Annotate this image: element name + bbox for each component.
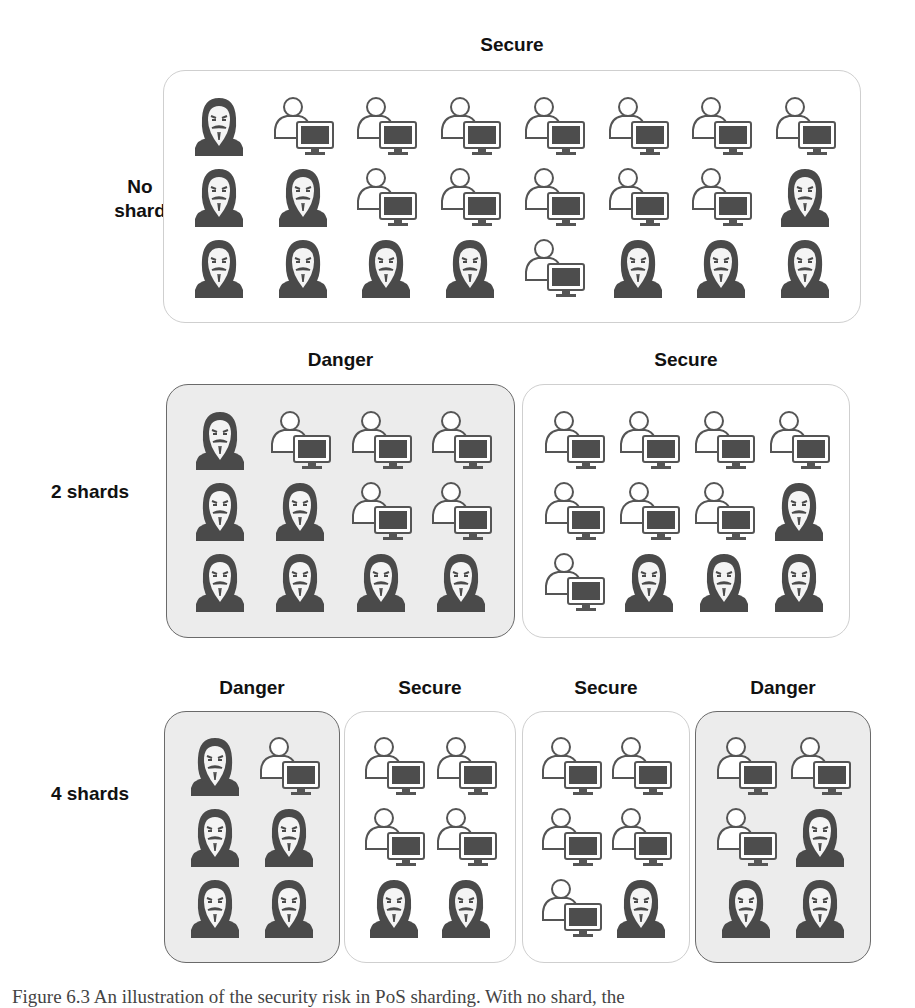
hacker-icon [767,479,831,543]
malicious-node [609,876,673,940]
honest-node [689,165,753,229]
user-computer-icon [429,479,493,543]
malicious-node [606,236,670,300]
user-computer-icon [714,805,778,869]
hacker-icon [362,876,426,940]
honest-node [522,94,586,158]
malicious-node [617,550,681,614]
shard-status-title: Secure [344,677,516,699]
malicious-node [257,805,321,869]
hacker-icon [617,550,681,614]
hacker-icon [188,479,252,543]
honest-node [617,479,681,543]
user-computer-icon [522,236,586,300]
hacker-icon [434,876,498,940]
malicious-node [183,805,247,869]
honest-node [767,408,831,472]
user-computer-icon [689,165,753,229]
malicious-node [183,876,247,940]
honest-node [429,479,493,543]
honest-node [773,94,837,158]
malicious-node [354,236,418,300]
hacker-icon [788,805,852,869]
malicious-node [268,550,332,614]
malicious-node [767,479,831,543]
honest-node [539,805,603,869]
hacker-icon [429,550,493,614]
honest-node [539,876,603,940]
malicious-node [767,550,831,614]
malicious-node [773,165,837,229]
hacker-icon [606,236,670,300]
user-computer-icon [692,408,756,472]
malicious-node [257,876,321,940]
user-computer-icon [349,408,413,472]
honest-node [714,805,778,869]
user-computer-icon [542,479,606,543]
user-computer-icon [714,734,778,798]
honest-node [692,408,756,472]
honest-node [788,734,852,798]
malicious-node [188,550,252,614]
user-computer-icon [542,550,606,614]
user-computer-icon [767,408,831,472]
hacker-icon [692,550,756,614]
user-computer-icon [354,94,418,158]
hacker-icon [268,479,332,543]
hacker-icon [689,236,753,300]
malicious-node [788,876,852,940]
user-computer-icon [434,805,498,869]
malicious-node [188,479,252,543]
hacker-icon [609,876,673,940]
user-computer-icon [609,805,673,869]
hacker-icon [271,236,335,300]
honest-node [606,94,670,158]
figure-caption: Figure 6.3 An illustration of the securi… [12,986,625,1008]
malicious-node [271,236,335,300]
hacker-icon [257,876,321,940]
hacker-icon [773,236,837,300]
hacker-icon [188,408,252,472]
user-computer-icon [609,734,673,798]
honest-node [542,408,606,472]
shard-status-title: Secure [163,34,861,56]
user-computer-icon [434,734,498,798]
malicious-node [714,876,778,940]
user-computer-icon [542,408,606,472]
malicious-node [434,876,498,940]
user-computer-icon [773,94,837,158]
hacker-icon [183,734,247,798]
user-computer-icon [438,165,502,229]
hacker-icon [354,236,418,300]
honest-node [609,805,673,869]
honest-node [539,734,603,798]
honest-node [438,94,502,158]
hacker-icon [438,236,502,300]
honest-node [606,165,670,229]
shard-box [163,70,861,323]
malicious-node [438,236,502,300]
user-computer-icon [354,165,418,229]
user-computer-icon [788,734,852,798]
user-computer-icon [617,479,681,543]
honest-node [362,805,426,869]
honest-node [349,408,413,472]
user-computer-icon [271,94,335,158]
shard-status-title: Danger [166,349,515,371]
user-computer-icon [429,408,493,472]
honest-node [257,734,321,798]
malicious-node [183,734,247,798]
user-computer-icon [539,805,603,869]
user-computer-icon [606,94,670,158]
honest-node [271,94,335,158]
hacker-icon [767,550,831,614]
shard-status-title: Secure [522,349,850,371]
malicious-node [429,550,493,614]
malicious-node [271,165,335,229]
user-computer-icon [349,479,413,543]
user-computer-icon [257,734,321,798]
hacker-icon [271,165,335,229]
hacker-icon [183,805,247,869]
honest-node [354,165,418,229]
honest-node [268,408,332,472]
